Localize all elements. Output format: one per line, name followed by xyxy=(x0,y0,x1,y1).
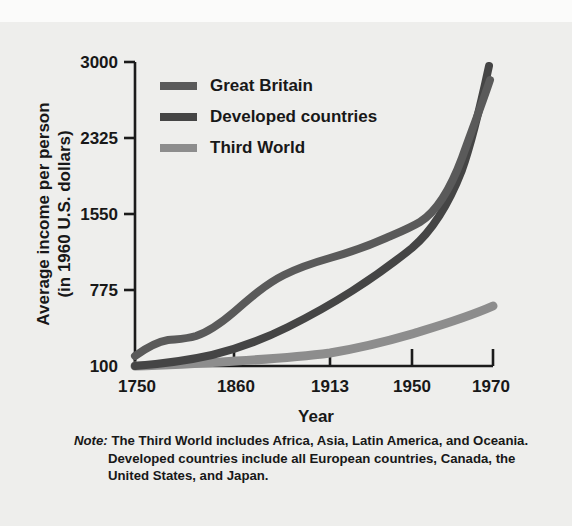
y-tick-label-3000: 3000 xyxy=(80,53,118,72)
legend-label-third-world: Third World xyxy=(210,138,305,157)
y-axis-title-line1: Average income per person xyxy=(34,102,53,325)
x-tick-label-1970: 1970 xyxy=(472,377,510,396)
y-tick-label-1550: 1550 xyxy=(80,205,118,224)
x-tick-label-1913: 1913 xyxy=(311,377,349,396)
y-axis-title-line2: (in 1960 U.S. dollars) xyxy=(55,130,74,297)
chart-figure: 3000 2325 1550 775 100 1750 1860 1913 19… xyxy=(0,0,572,526)
x-tick-label-1950: 1950 xyxy=(393,377,431,396)
x-axis-title: Year xyxy=(298,407,334,426)
chart-legend: Great Britain Developed countries Third … xyxy=(160,76,377,157)
x-tick-label-1750: 1750 xyxy=(118,377,156,396)
legend-label-developed-countries: Developed countries xyxy=(210,107,377,126)
x-tick-label-1860: 1860 xyxy=(217,377,255,396)
y-tick-label-775: 775 xyxy=(90,281,118,300)
chart-note: Note: The Third World includes Africa, A… xyxy=(74,432,548,485)
note-prefix-label: Note: xyxy=(74,433,108,448)
y-tick-label-2325: 2325 xyxy=(80,129,118,148)
legend-label-great-britain: Great Britain xyxy=(210,76,313,95)
y-tick-label-100: 100 xyxy=(90,357,118,376)
note-text: The Third World includes Africa, Asia, L… xyxy=(108,433,528,483)
